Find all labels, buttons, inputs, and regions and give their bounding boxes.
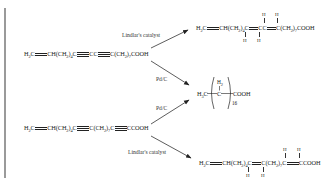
double-bond: [287, 161, 299, 166]
single-bond: [285, 153, 286, 158]
hydrogen-atom: H: [283, 147, 287, 152]
double-bond: [252, 161, 261, 166]
single-bond: [299, 153, 300, 158]
hydrogen-atom: H: [246, 173, 250, 178]
double-bond: [210, 161, 222, 166]
product-3-formula: H2CCH(CH2)4CC(CH2)7CCCOOH: [199, 160, 320, 166]
single-bond: [263, 167, 264, 172]
hydrogen-atom: H: [297, 147, 301, 152]
hydrogen-atom: H: [261, 173, 265, 178]
repeat-unit-brackets: [0, 0, 336, 185]
single-bond: [248, 167, 249, 172]
